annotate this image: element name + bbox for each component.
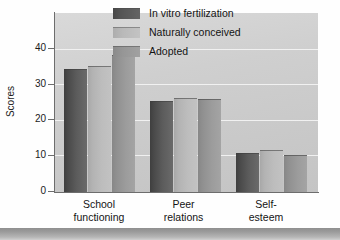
x-axis-line	[54, 192, 319, 193]
legend-item-naturally-conceived: Naturally conceived	[113, 24, 263, 41]
y-axis-line	[54, 12, 55, 193]
bar-self-esteem-adopted	[284, 155, 307, 192]
y-tick-label-20: 20	[35, 114, 46, 124]
y-tick-mark-30	[48, 84, 55, 85]
x-category-label-self-esteem: Self- esteem	[226, 198, 306, 223]
y-axis-title: Scores	[5, 86, 16, 117]
bar-school-functioning-in-vitro-fertilization	[64, 69, 87, 192]
bar-peer-relations-adopted	[198, 99, 221, 192]
y-tick-label-40: 40	[35, 43, 46, 53]
y-tick-mark-40	[48, 48, 55, 49]
bar-peer-relations-in-vitro-fertilization	[150, 101, 173, 192]
legend: In vitro fertilization Naturally conceiv…	[113, 5, 263, 62]
y-tick-label-30: 30	[35, 79, 46, 89]
y-tick-mark-20	[48, 119, 55, 120]
legend-label-adopted: Adopted	[149, 46, 188, 57]
x-category-label-peer-relations: Peer relations	[141, 198, 226, 223]
bottom-strip	[0, 228, 340, 240]
y-tick-mark-10	[48, 155, 55, 156]
y-tick-mark-0	[48, 191, 55, 192]
y-tick-label-0: 0	[40, 186, 46, 196]
legend-item-in-vitro-fertilization: In vitro fertilization	[113, 5, 263, 22]
legend-swatch-naturally-conceived	[113, 27, 140, 38]
bar-self-esteem-in-vitro-fertilization	[236, 153, 259, 192]
legend-swatch-in-vitro-fertilization	[113, 8, 140, 19]
x-category-label-school-functioning: School functioning	[54, 198, 144, 223]
bar-chart-figure: 40 30 20 10 0 Scores In vitro fertilizat…	[0, 0, 340, 240]
legend-swatch-adopted	[113, 46, 140, 57]
legend-item-adopted: Adopted	[113, 43, 263, 60]
bar-school-functioning-naturally-conceived	[88, 66, 111, 192]
legend-label-naturally-conceived: Naturally conceived	[149, 27, 241, 38]
legend-label-in-vitro-fertilization: In vitro fertilization	[149, 8, 234, 19]
y-tick-label-10: 10	[35, 150, 46, 160]
bar-peer-relations-naturally-conceived	[174, 98, 197, 192]
bar-school-functioning-adopted	[112, 55, 135, 192]
bar-self-esteem-naturally-conceived	[260, 150, 283, 192]
